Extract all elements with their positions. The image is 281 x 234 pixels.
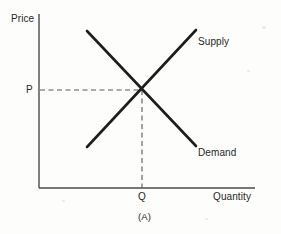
y-axis-label: Price <box>11 13 34 24</box>
x-axis-label: Quantity <box>213 191 251 202</box>
supply-demand-figure: Price Supply Demand P Q Quantity (A) <box>0 0 281 234</box>
price-tick-label: P <box>26 84 33 95</box>
quantity-tick-label: Q <box>138 191 146 202</box>
figure-caption: (A) <box>138 211 151 222</box>
demand-curve-label: Demand <box>198 147 236 158</box>
supply-curve-label: Supply <box>198 36 229 47</box>
